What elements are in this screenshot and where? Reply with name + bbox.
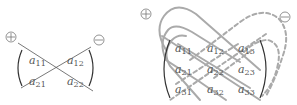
entry-a23: a23 <box>238 63 255 77</box>
right-parenthesis <box>89 50 93 86</box>
entry-a11: a11 <box>29 54 46 68</box>
figure-2x2: a11 a12 a21 a22 <box>6 32 104 91</box>
minus-sign-icon <box>280 12 290 22</box>
entry-a22: a22 <box>207 63 224 77</box>
left-parenthesis <box>18 50 22 86</box>
entry-a22: a22 <box>67 75 84 89</box>
figure-3x3: a11 a12 a13 a21 a22 a23 a31 a32 a33 <box>141 7 290 100</box>
entry-a12: a12 <box>207 42 224 56</box>
determinant-diagrams: a11 a12 a21 a22 <box>0 0 297 105</box>
plus-sign-icon <box>6 32 16 42</box>
entry-a31: a31 <box>175 83 192 97</box>
entry-a21: a21 <box>29 75 46 89</box>
minus-sign-icon <box>94 35 104 45</box>
plus-sign-icon <box>141 9 151 19</box>
entry-a32: a32 <box>207 83 224 97</box>
entry-a11: a11 <box>175 42 192 56</box>
entry-a21: a21 <box>175 63 192 77</box>
right-parenthesis <box>260 40 266 98</box>
negative-diagonals <box>170 13 286 100</box>
